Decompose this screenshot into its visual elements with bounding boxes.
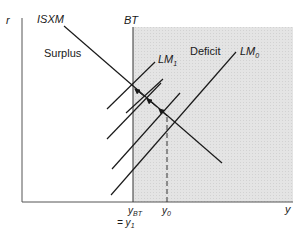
surplus-label: Surplus <box>44 47 82 59</box>
deficit-label: Deficit <box>190 45 221 57</box>
y-axis-label: r <box>6 14 11 26</box>
y1-equality-label: = y1 <box>117 217 135 229</box>
ybt-tick-label: yBT <box>127 205 143 217</box>
x-axis-label: y <box>284 203 292 215</box>
bop-diagram: r y ISXM BT Surplus Deficit LM1 LM0 yBT … <box>0 0 308 231</box>
isxm-label: ISXM <box>37 13 65 25</box>
bt-label: BT <box>124 14 139 26</box>
y0-tick-label: y0 <box>161 205 171 217</box>
